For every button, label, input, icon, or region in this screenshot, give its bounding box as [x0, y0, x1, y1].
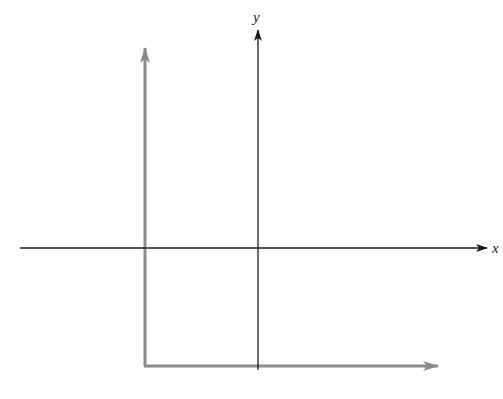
main-axes — [20, 30, 487, 370]
shifted-axes — [144, 48, 438, 366]
coordinate-diagram: y x — [0, 0, 503, 399]
y-axis-label: y — [251, 9, 260, 25]
x-axis-label: x — [491, 240, 499, 256]
